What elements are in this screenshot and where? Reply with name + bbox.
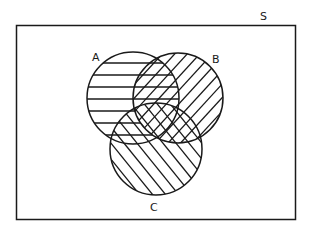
- hatch-line-c: [241, 95, 314, 200]
- universe-label: S: [260, 10, 267, 23]
- hatch-line-c: [163, 95, 248, 200]
- hatch-line-b: [240, 40, 314, 160]
- hatch-line-c: [215, 95, 300, 200]
- hatch-line-c: [254, 95, 314, 200]
- hatch-line-b: [190, 40, 300, 160]
- hatch-line-b: [215, 40, 314, 160]
- hatch-line-b: [15, 40, 125, 160]
- hatch-line-c: [150, 95, 235, 200]
- hatch-line-b: [253, 40, 315, 160]
- set-b-label: B: [212, 53, 220, 66]
- hatch-line-c: [228, 95, 313, 200]
- hatch-line-b: [0, 40, 100, 160]
- hatch-line-b: [228, 40, 315, 160]
- hatch-line-b: [290, 40, 314, 160]
- hatch-line-b: [0, 40, 88, 160]
- hatch-line-b: [265, 40, 314, 160]
- hatch-line-b: [165, 40, 275, 160]
- hatch-line-b: [178, 40, 288, 160]
- hatch-line-b: [303, 40, 315, 160]
- hatch-line-c: [202, 95, 287, 200]
- set-c-label: C: [150, 201, 158, 214]
- hatch-line-b: [0, 40, 63, 160]
- set-c-circle: [110, 103, 202, 195]
- set-a-label: A: [92, 51, 100, 64]
- venn-diagram: S A B C: [0, 0, 314, 232]
- hatch-line-b: [0, 40, 75, 160]
- hatch-line-b: [0, 40, 50, 160]
